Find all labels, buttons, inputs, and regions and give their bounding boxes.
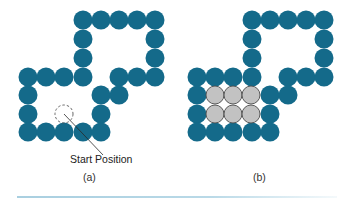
- boundary-pixel: [188, 105, 207, 124]
- boundary-pixel: [261, 11, 280, 30]
- boundary-pixel: [19, 86, 38, 105]
- boundary-pixel: [19, 105, 38, 124]
- filled-pixel: [206, 105, 224, 123]
- boundary-pixel: [188, 86, 207, 105]
- boundary-pixel: [55, 68, 74, 87]
- boundary-pixel: [37, 123, 56, 142]
- filled-pixel: [242, 86, 260, 104]
- filled-pixel: [242, 105, 260, 123]
- boundary-pixel: [224, 123, 243, 142]
- boundary-pixel: [188, 123, 207, 142]
- boundary-pixel: [243, 30, 262, 49]
- boundary-pixel: [243, 11, 262, 30]
- filled-pixel: [224, 86, 242, 104]
- boundary-pixel: [261, 86, 280, 105]
- panel-a-region: [19, 11, 165, 156]
- boundary-pixel: [146, 68, 165, 87]
- panel-b-region: [188, 11, 334, 142]
- start-position-label: Start Position: [70, 153, 132, 165]
- boundary-pixel: [74, 11, 93, 30]
- panel-b-caption: (b): [253, 171, 266, 183]
- bottom-divider: [17, 196, 337, 198]
- boundary-pixel: [261, 105, 280, 124]
- boundary-pixel: [243, 68, 262, 87]
- boundary-pixel: [146, 30, 165, 49]
- boundary-pixel: [74, 30, 93, 49]
- boundary-pixel: [315, 49, 334, 68]
- boundary-pixel: [243, 123, 262, 142]
- boundary-pixel: [128, 11, 147, 30]
- boundary-pixel: [74, 123, 93, 142]
- boundary-pixel: [92, 105, 111, 124]
- boundary-pixel: [19, 123, 38, 142]
- boundary-pixel: [37, 68, 56, 87]
- boundary-pixel: [55, 123, 74, 142]
- boundary-pixel: [224, 68, 243, 87]
- boundary-pixel: [188, 68, 207, 87]
- boundary-fill-figure: Start Position (a) (b): [0, 0, 350, 198]
- boundary-pixel: [279, 86, 298, 105]
- boundary-pixel: [110, 11, 129, 30]
- boundary-pixel: [110, 86, 129, 105]
- boundary-pixel: [146, 49, 165, 68]
- boundary-pixel: [297, 68, 316, 87]
- boundary-pixel: [297, 11, 316, 30]
- boundary-pixel: [279, 68, 298, 87]
- boundary-pixel: [19, 68, 38, 87]
- boundary-pixel: [146, 11, 165, 30]
- boundary-pixel: [128, 68, 147, 87]
- boundary-pixel: [243, 49, 262, 68]
- filled-pixel: [224, 105, 242, 123]
- boundary-pixel: [92, 123, 111, 142]
- boundary-pixel: [315, 11, 334, 30]
- boundary-pixel: [206, 68, 225, 87]
- filled-pixel: [206, 86, 224, 104]
- boundary-pixel: [315, 68, 334, 87]
- boundary-pixel: [261, 123, 280, 142]
- boundary-pixel: [279, 11, 298, 30]
- boundary-pixel: [74, 49, 93, 68]
- boundary-pixel: [110, 68, 129, 87]
- boundary-pixel: [206, 123, 225, 142]
- boundary-pixel: [92, 11, 111, 30]
- boundary-pixel: [92, 86, 111, 105]
- boundary-pixel: [315, 30, 334, 49]
- panel-a-caption: (a): [83, 171, 96, 183]
- boundary-pixel: [74, 68, 93, 87]
- fill-diagram: [0, 0, 350, 198]
